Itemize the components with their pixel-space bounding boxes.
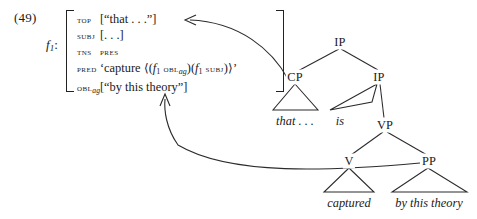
tree-node-vp: VP bbox=[375, 118, 394, 133]
tree-node-pp: PP bbox=[420, 154, 437, 169]
tree-leaf-by-this-theory: by this theory bbox=[395, 196, 462, 211]
tree-leaf-captured: captured bbox=[327, 196, 371, 211]
tree-node-ip-root: IP bbox=[333, 35, 347, 50]
tree-leaf-is: is bbox=[336, 114, 344, 129]
triangle-cp bbox=[273, 84, 318, 110]
edge-vp-to-v bbox=[351, 132, 383, 155]
tree-node-ip-lower: IP bbox=[372, 70, 386, 85]
triangle-v bbox=[324, 168, 374, 192]
tree-node-cp: CP bbox=[286, 70, 305, 85]
c-structure-tree: IP CP IP VP V PP that . . . is captured … bbox=[0, 0, 477, 219]
figure-49-lfg-structure: (49) f1: TOP [“that . . .”] SUBJ [. . .]… bbox=[0, 0, 477, 219]
edge-ip-lower-to-vp bbox=[380, 84, 384, 118]
triangle-pp bbox=[392, 168, 467, 192]
tree-node-v: V bbox=[343, 154, 355, 169]
triangle-ip-is bbox=[330, 84, 377, 110]
tree-leaf-that: that . . . bbox=[276, 114, 314, 129]
edge-ip-root-to-ip-lower bbox=[341, 49, 378, 70]
edge-vp-to-pp bbox=[387, 132, 427, 155]
tree-lines bbox=[0, 0, 477, 219]
arrow-top-to-cp-path bbox=[190, 20, 288, 79]
